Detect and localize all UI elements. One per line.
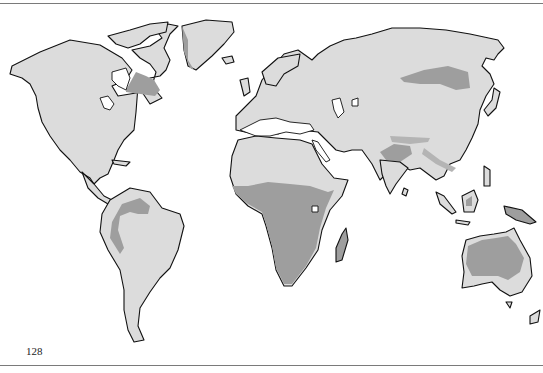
- java: [456, 220, 470, 225]
- page-number: 128: [26, 345, 43, 357]
- north-america: [10, 24, 178, 184]
- tasmania: [506, 302, 512, 308]
- sri-lanka: [402, 188, 408, 196]
- british-isles: [240, 78, 250, 96]
- new-zealand: [530, 310, 540, 324]
- new-guinea: [504, 206, 536, 224]
- iceland: [222, 56, 234, 64]
- world-map: [0, 0, 543, 373]
- madagascar: [336, 228, 348, 262]
- sub-saharan-shaded: [232, 182, 334, 284]
- sumatra: [436, 192, 456, 214]
- hudson-bay: [112, 68, 130, 90]
- philippines: [484, 166, 490, 186]
- bottom-rule: [0, 365, 543, 366]
- lake-victoria: [312, 206, 318, 212]
- cuba: [112, 160, 130, 166]
